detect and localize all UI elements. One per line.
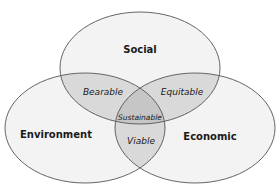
economic-label: Economic xyxy=(183,132,236,142)
social-label: Social xyxy=(123,45,157,55)
equitable-label: Equitable xyxy=(161,88,203,97)
viable-label: Viable xyxy=(127,137,155,146)
venn-diagram xyxy=(0,0,278,189)
environment-label: Environment xyxy=(20,130,92,140)
bearable-label: Bearable xyxy=(83,88,123,97)
sustainable-label: Sustainable xyxy=(118,114,162,122)
